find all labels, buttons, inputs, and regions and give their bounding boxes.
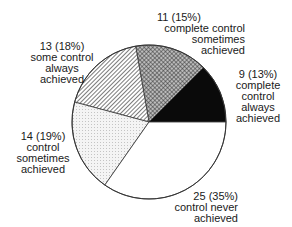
label-line: achieved	[12, 164, 74, 175]
label-line: achieved	[26, 74, 98, 85]
label-line: achieved	[230, 113, 286, 124]
label-line: achieved	[155, 45, 245, 56]
label-line: achieved	[164, 213, 238, 224]
slice-label-control-sometimes: 14 (19%) control sometimes achieved	[12, 131, 74, 175]
slice-label-complete-control-sometimes: 11 (15%) complete control sometimes achi…	[155, 12, 245, 56]
slice-label-control-never: 25 (35%) control never achieved	[164, 191, 238, 224]
slice-label-complete-control-always: 9 (13%) complete control always achieved	[230, 69, 286, 124]
slice-label-some-control-always: 13 (18%) some control always achieved	[26, 41, 98, 85]
